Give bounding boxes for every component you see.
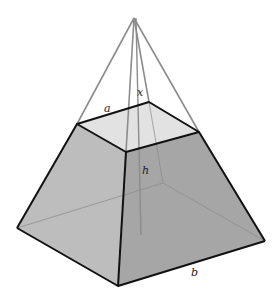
label-b: b — [191, 266, 198, 279]
label-a: a — [104, 102, 111, 115]
label-x: x — [137, 86, 144, 99]
frustum-diagram: a x h b — [0, 0, 280, 304]
label-h: h — [142, 164, 149, 177]
left-face — [17, 124, 126, 286]
